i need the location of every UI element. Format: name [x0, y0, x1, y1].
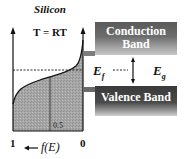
- conduction-band: Conduction Band: [95, 22, 177, 55]
- band-gap-arrow-down-icon: [131, 79, 135, 84]
- valence-band: Valence Band: [95, 86, 177, 116]
- gap-subscript: g: [162, 72, 166, 81]
- occupied-states-shading: [13, 40, 83, 131]
- gap-symbol: E: [153, 63, 162, 78]
- valence-band-label: Valence Band: [95, 91, 177, 104]
- temperature-label: T = RT: [0, 26, 100, 38]
- x-axis-label: f(E): [41, 140, 60, 155]
- conduction-band-edge: [83, 51, 95, 56]
- right-tick-label: 0: [80, 137, 86, 149]
- left-tick-label: 1: [10, 137, 16, 149]
- fermi-subscript: f: [102, 72, 105, 81]
- band-gap-label: Eg: [153, 63, 166, 81]
- material-title: Silicon: [0, 3, 100, 15]
- fermi-level-label: Ef: [93, 63, 104, 81]
- band-gap-arrow-up-icon: [131, 57, 135, 62]
- conduction-band-label-line2: Band: [95, 38, 177, 51]
- f-axis-arrow-icon: [24, 146, 29, 151]
- valence-band-edge: [83, 87, 95, 92]
- fermi-symbol: E: [93, 63, 102, 78]
- half-tick-label: 0.5: [53, 121, 63, 130]
